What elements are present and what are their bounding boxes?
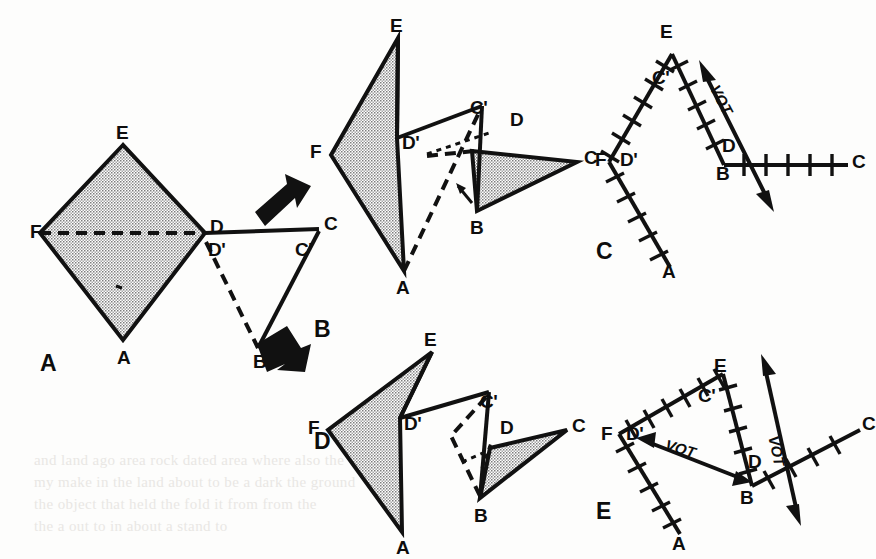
vertex-label-a: A [672, 534, 686, 553]
vertex-label-a: A [662, 262, 676, 281]
vertex-label-b: B [716, 164, 730, 183]
panel-c-drawing [600, 22, 876, 292]
vertex-label-c-prime: C' [470, 98, 487, 117]
vertex-label-d-prime: D' [208, 240, 225, 259]
panel-d-drawing [314, 320, 614, 559]
vertex-label-a: A [396, 278, 410, 297]
vertex-label-c: C [862, 414, 876, 433]
interior-mark [116, 286, 122, 288]
shaded-kite-left [331, 38, 404, 271]
shaded-triangle-right [472, 151, 577, 211]
vertex-label-d: D [722, 136, 736, 155]
vertex-label-c-prime: C' [698, 386, 715, 405]
vertex-label-e: E [424, 330, 437, 349]
vertex-label-f: F [601, 424, 613, 443]
vertex-label-e: E [116, 123, 129, 142]
vot-arrow-2-head-up [761, 354, 776, 376]
vertex-label-f: F [595, 150, 607, 169]
vertex-label-f: F [30, 222, 42, 241]
bleedthrough-text: the a out to in about a stand to [34, 518, 228, 535]
vertex-label-e: E [390, 16, 403, 35]
shaded-sliver-right [480, 430, 567, 498]
panel-letter-c: C [596, 240, 613, 263]
vertex-label-c: C [852, 152, 866, 171]
figure-root: and land ago area rock dated area where … [0, 0, 876, 559]
panel-letter-a: A [40, 352, 57, 375]
vertex-label-a: A [117, 348, 131, 367]
vertex-label-d-prime: D' [620, 150, 637, 169]
vertex-label-d: D [500, 418, 514, 437]
panel-letter-d: D [314, 430, 331, 453]
bleedthrough-text: the object that held the fold it from fr… [34, 496, 317, 513]
vertex-label-c-prime: C' [480, 392, 497, 411]
panel-letter-e: E [596, 500, 611, 523]
vertex-label-b: B [470, 218, 484, 237]
vertex-label-a: A [396, 538, 410, 557]
segment-e-dprime [397, 38, 398, 138]
vertex-label-d: D [748, 452, 762, 471]
dashed-trace-to-d [427, 151, 474, 156]
vertex-label-f: F [310, 142, 322, 161]
bleedthrough-text: my make in the land about to be a dark t… [34, 474, 356, 491]
shaded-rhomb [40, 145, 205, 340]
vot-arrow-head-up [699, 60, 716, 82]
vertex-label-d: D [510, 110, 524, 129]
vertex-label-b: B [474, 506, 488, 525]
vertex-label-b: B [740, 488, 754, 507]
shaded-kite-left [328, 352, 432, 532]
segment-e-b [672, 54, 724, 165]
vertex-label-e: E [660, 22, 673, 41]
flow-arrow-up-right [245, 170, 325, 240]
vertex-label-d: D [210, 217, 224, 236]
vertex-label-c-prime: C' [652, 68, 669, 87]
block-arrow-icon [257, 326, 311, 372]
panel-b-drawing [314, 28, 614, 298]
vertex-label-d-prime: D' [402, 133, 419, 152]
vertex-label-c-prime: C' [295, 240, 312, 259]
vot-arrow-2-head-down [786, 504, 801, 526]
vertex-label-d-prime: D' [404, 414, 421, 433]
vertex-label-d-prime: D' [626, 424, 643, 443]
block-arrow-icon [255, 174, 311, 226]
vertex-label-c: C [572, 416, 586, 435]
flow-arrow-down-right [245, 322, 325, 392]
bleedthrough-text: and land ago area rock dated area where … [34, 452, 344, 469]
vertex-label-e: E [714, 356, 727, 375]
vot-arrow-head-down [756, 190, 774, 212]
